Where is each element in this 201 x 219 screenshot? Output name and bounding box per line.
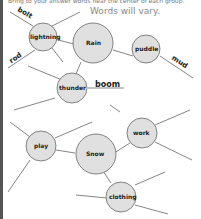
written-rod: rod [8, 51, 23, 65]
node-label-rain: Rain [86, 39, 101, 46]
node-label-lightning: lightning [30, 33, 60, 40]
node-label-play: play [34, 142, 48, 149]
node-label-clothing: clothing [109, 193, 137, 200]
node-label-work: work [133, 129, 150, 136]
node-label-thunder: thunder [59, 84, 86, 91]
node-label-puddle: puddle [135, 45, 158, 52]
node-label-snow: Snow [86, 150, 104, 157]
written-bolt: bolt [16, 6, 33, 21]
written-boom: boom [95, 80, 120, 89]
written-mud: mud [170, 54, 189, 70]
